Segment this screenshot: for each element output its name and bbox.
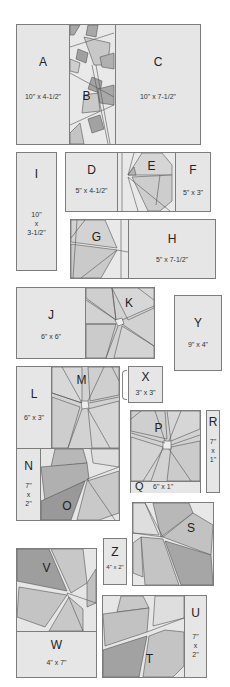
piece-r-size-line3: 1" (207, 455, 219, 464)
piece-r: R 7" x 1" (206, 410, 220, 493)
block-lmno: L 6" x 3" M N 7" x 2" (16, 366, 120, 521)
piece-u-size-line2: x (185, 641, 206, 650)
piece-r-letter: R (207, 415, 219, 429)
piece-w-size: 4" x 7" (17, 658, 96, 667)
piece-g-patchwork (71, 220, 128, 278)
piece-n-letter: N (17, 459, 40, 473)
piece-k-letter: K (104, 296, 154, 310)
piece-l-letter: L (17, 387, 51, 401)
piece-y-letter: Y (175, 316, 221, 330)
piece-m: M (52, 367, 119, 449)
piece-b-letter: B (58, 89, 115, 103)
piece-v-letter: V (17, 561, 96, 575)
piece-j-letter: J (17, 308, 85, 322)
piece-s-patchwork (133, 503, 213, 585)
piece-d-size: 5" x 4-1/2" (66, 186, 117, 195)
piece-t-letter: T (115, 652, 184, 666)
block-def: D 5" x 4-1/2" E F 5" x 3" (65, 152, 211, 212)
block-abc: A 10" x 4-1/2" B C 10" x 7-1/2" (16, 24, 201, 145)
piece-i: I 10" x 3-1/2" (16, 152, 57, 271)
piece-c-letter: C (116, 55, 200, 69)
brace-icon (122, 370, 127, 400)
piece-f-letter: F (176, 163, 210, 177)
piece-y: Y 9" x 4" (174, 295, 222, 371)
piece-i-size-line2: x (17, 219, 56, 228)
piece-o-letter: O (15, 499, 119, 513)
piece-u-size-line1: 7" (185, 632, 206, 641)
block-gh: G H 5" x 7-1/2" (70, 219, 216, 279)
block-tu: T U 7" x 2" (102, 595, 207, 678)
piece-e: E (118, 153, 176, 211)
piece-c-size: 10" x 7-1/2" (116, 92, 200, 101)
piece-z: Z 4" x 2" (103, 538, 127, 585)
piece-i-letter: I (17, 167, 56, 181)
piece-h-letter: H (129, 232, 215, 246)
piece-d-letter: D (66, 163, 117, 177)
piece-u: U 7" x 2" (185, 596, 206, 677)
piece-t: T (103, 596, 185, 677)
piece-i-size-line3: 3-1/2" (17, 228, 56, 237)
piece-x-letter: X (129, 370, 162, 384)
block-jk: J 6" x 6" K (16, 287, 155, 359)
piece-n-size-line1: 7" (17, 481, 40, 490)
block-vw: V W 4" x 7" (16, 548, 97, 678)
piece-h-size: 5" x 7-1/2" (129, 255, 215, 264)
piece-g-letter: G (65, 230, 128, 244)
piece-r-size-line2: x (207, 446, 219, 455)
piece-g: G (71, 220, 129, 278)
piece-j: J 6" x 6" (17, 288, 86, 358)
piece-f: F 5" x 3" (176, 153, 210, 211)
piece-h: H 5" x 7-1/2" (129, 220, 215, 278)
piece-q-size: 6" x 1" (153, 483, 173, 490)
piece-x-size: 3" x 3" (129, 388, 162, 397)
piece-s-letter: S (169, 521, 213, 535)
piece-x: X 3" x 3" (128, 366, 163, 403)
piece-b-patchwork (70, 25, 115, 144)
piece-a-letter: A (17, 55, 69, 69)
piece-u-size-line3: 2" (185, 650, 206, 659)
piece-o: O (41, 449, 119, 520)
piece-q: Q 6" x 1" (131, 481, 200, 493)
piece-a: A 10" x 4-1/2" (17, 25, 70, 144)
piece-z-size: 4" x 2" (104, 563, 126, 572)
piece-s: S (132, 502, 214, 586)
piece-k: K (86, 288, 154, 358)
piece-p-letter: P (117, 421, 200, 435)
piece-r-size-line1: 7" (207, 437, 219, 446)
piece-v: V (17, 549, 96, 632)
piece-m-letter: M (44, 373, 119, 387)
piece-d: D 5" x 4-1/2" (66, 153, 118, 211)
piece-c: C 10" x 7-1/2" (116, 25, 200, 144)
piece-b: B (70, 25, 116, 144)
piece-u-letter: U (185, 606, 206, 620)
piece-j-size: 6" x 6" (17, 332, 85, 341)
piece-w: W 4" x 7" (17, 632, 96, 677)
piece-y-size: 9" x 4" (175, 340, 221, 349)
piece-f-size: 5" x 3" (176, 188, 210, 197)
block-pq: P Q 6" x 1" (130, 410, 201, 493)
piece-l-size: 6" x 3" (17, 413, 51, 422)
piece-n-size-line2: x (17, 490, 40, 499)
piece-i-size-line1: 10" (17, 210, 56, 219)
piece-z-letter: Z (104, 545, 126, 559)
piece-w-letter: W (17, 638, 96, 652)
piece-e-letter: E (128, 159, 175, 173)
piece-q-letter: Q (135, 480, 144, 492)
